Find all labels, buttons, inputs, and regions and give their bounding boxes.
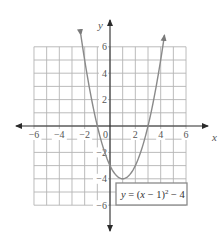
y-tick-label: 6 <box>102 41 107 52</box>
equation-label: y = (x − 1)2 − 4 <box>116 183 187 205</box>
y-axis-label: y <box>97 19 103 31</box>
x-tick-label: −6 <box>29 129 40 140</box>
x-tick-label: 4 <box>158 129 163 140</box>
equation-text: y = (x − 1)2 − 4 <box>120 188 186 201</box>
parabola-chart: −6−4−20246 642−2−4−6 x y y = (x − 1)2 − … <box>0 0 224 233</box>
x-tick-label: −4 <box>54 129 65 140</box>
x-tick-labels: −6−4−20246 <box>26 129 190 140</box>
x-axis-label: x <box>211 131 217 143</box>
y-tick-label: −6 <box>96 200 107 211</box>
x-tick-label: 0 <box>103 129 108 140</box>
y-tick-label: 2 <box>102 94 107 105</box>
y-tick-label: 4 <box>102 68 107 79</box>
x-tick-label: 2 <box>133 129 138 140</box>
x-tick-label: 6 <box>184 129 189 140</box>
y-tick-label: −4 <box>96 173 107 184</box>
x-tick-label: −2 <box>79 129 90 140</box>
